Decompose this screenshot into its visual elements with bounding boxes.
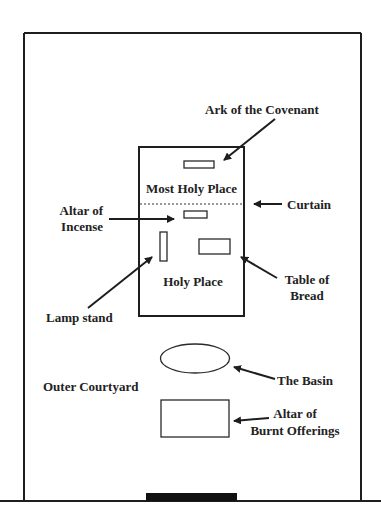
label-outer-courtyard: Outer Courtyard — [43, 379, 139, 394]
label-altar-of-incense-1: Altar of — [60, 203, 104, 218]
label-lamp-stand: Lamp stand — [46, 310, 114, 325]
table-of-bread-arrow — [241, 257, 277, 278]
label-curtain: Curtain — [287, 197, 332, 212]
tabernacle-diagram: Ark of the Covenant Most Holy Place Curt… — [0, 0, 381, 529]
basin-arrow — [234, 367, 275, 379]
ark-of-covenant-shape — [184, 161, 214, 168]
altar-of-incense-shape — [184, 211, 207, 218]
table-of-bread-shape — [199, 239, 230, 254]
lamp-stand-arrow — [88, 257, 152, 308]
label-table-of-bread-1: Table of — [285, 272, 330, 287]
label-most-holy-place: Most Holy Place — [146, 181, 237, 196]
altar-of-burnt-offerings-shape — [161, 400, 229, 437]
tabernacle-building — [139, 147, 244, 316]
altar-of-burnt-offerings-arrow — [234, 418, 269, 421]
ark-arrow — [224, 119, 275, 160]
label-altar-of-incense-2: Incense — [61, 219, 103, 234]
label-altar-of-burnt-offerings-1: Altar of — [273, 406, 317, 421]
label-altar-of-burnt-offerings-2: Burnt Offerings — [250, 423, 339, 438]
label-basin: The Basin — [277, 373, 334, 388]
lamp-stand-shape — [160, 232, 167, 261]
label-holy-place: Holy Place — [163, 274, 223, 289]
courtyard-gate — [146, 493, 237, 501]
label-table-of-bread-2: Bread — [290, 288, 324, 303]
label-ark-of-covenant: Ark of the Covenant — [205, 102, 319, 117]
basin-shape — [161, 344, 230, 373]
